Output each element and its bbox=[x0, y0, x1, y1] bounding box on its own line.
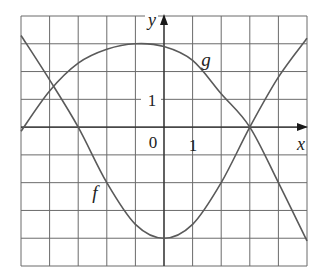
function-graph: 1 0 1 x y f g bbox=[0, 0, 315, 272]
curve-g-label: g bbox=[201, 49, 211, 70]
origin-label: 0 bbox=[149, 133, 158, 152]
x-axis-arrow-icon bbox=[297, 123, 308, 131]
curve-f-label: f bbox=[92, 182, 100, 203]
y-tick-label-1: 1 bbox=[148, 91, 157, 110]
x-tick-label-1: 1 bbox=[189, 136, 198, 155]
x-axis-label: x bbox=[296, 134, 305, 154]
y-axis-label: y bbox=[146, 10, 156, 30]
